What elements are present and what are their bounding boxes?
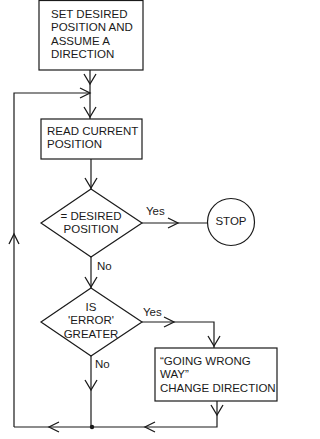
- junction-dot: [90, 425, 94, 429]
- change-direction-text: “GOING WRONG WAY” CHANGE DIRECTION: [160, 355, 276, 395]
- error-greater-text: IS 'ERROR' GREATER: [51, 301, 131, 341]
- stop-text: STOP: [208, 215, 254, 228]
- read-position-text: READ CURRENT POSITION: [47, 125, 138, 152]
- desired-position-text: = DESIRED POSITION: [51, 210, 131, 237]
- edge-label-no: No: [97, 260, 112, 273]
- edge-label-yes: Yes: [146, 205, 165, 218]
- start-box-text: SET DESIRED POSITION AND ASSUME A DIRECT…: [51, 8, 133, 61]
- edge-label-yes: Yes: [143, 306, 162, 319]
- edge-label-no: No: [95, 358, 110, 371]
